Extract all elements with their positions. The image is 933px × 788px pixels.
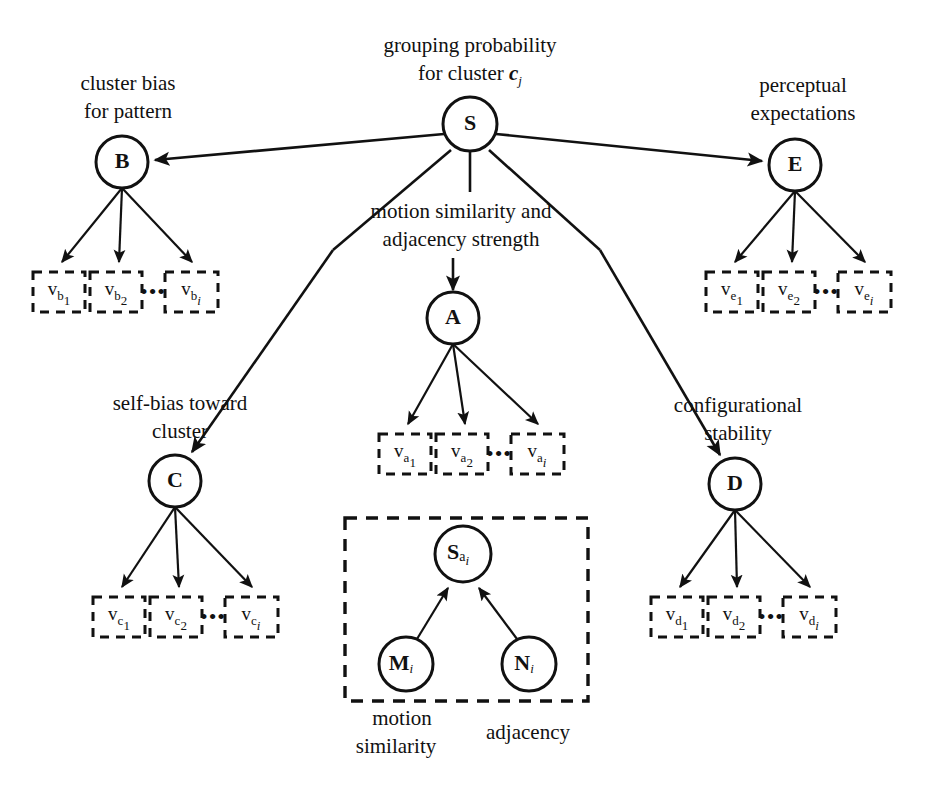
edge-b-to-vb2 xyxy=(119,188,122,262)
leaf-group-d: ••• vd1 vd2 vdi xyxy=(651,597,836,637)
node-label-b: B xyxy=(115,148,130,173)
node-n[interactable]: Ni xyxy=(502,637,556,691)
leaf-ellipsis-a: ••• xyxy=(486,441,512,466)
node-d[interactable]: D xyxy=(709,458,761,510)
edge-c-to-vc2 xyxy=(175,507,179,587)
annot-cluster-bias-line1: cluster bias xyxy=(80,71,175,95)
leaf-group-c: ••• vc1 vc2 vci xyxy=(93,597,278,637)
node-label-a: A xyxy=(445,304,461,329)
edges-from-e xyxy=(735,191,865,262)
annot-config-line1: configurational xyxy=(674,393,802,417)
annot-self-bias-line1: self-bias toward xyxy=(113,391,248,415)
node-sa[interactable]: Sai xyxy=(435,526,491,582)
annot-motion-sim-line1: motion xyxy=(372,706,432,730)
edge-d-to-vdi xyxy=(735,510,810,587)
neural-network-diagram: ••• vb1 vb2 vbi ••• ve1 ve2 vei ••• va1 … xyxy=(0,0,933,788)
edge-a-to-va2 xyxy=(453,344,465,424)
edge-s-to-b xyxy=(155,134,444,160)
leaf-ellipsis-c: ••• xyxy=(200,604,226,629)
leaf-group-e: ••• ve1 ve2 vei xyxy=(706,272,891,312)
node-b[interactable]: B xyxy=(96,136,148,188)
node-label-c: C xyxy=(167,467,183,492)
leaf-ellipsis-b: ••• xyxy=(140,279,166,304)
edge-s-to-e xyxy=(496,134,762,161)
annot-config-line2: stability xyxy=(704,421,772,445)
annot-motion-adj-line2: adjacency strength xyxy=(383,227,540,251)
node-label-e: E xyxy=(788,151,803,176)
annot-grouping-line1: grouping probability xyxy=(383,33,557,57)
edge-e-to-vei xyxy=(795,191,865,262)
annot-perceptual-line1: perceptual xyxy=(759,73,847,97)
edges-from-c xyxy=(122,507,252,587)
node-c[interactable]: C xyxy=(149,455,201,507)
annot-perceptual-line2: expectations xyxy=(751,101,856,125)
edges-from-d xyxy=(680,510,810,587)
edges-from-b xyxy=(62,188,192,262)
annot-cluster-bias-line2: for pattern xyxy=(84,99,173,123)
edge-e-to-ve1 xyxy=(735,191,795,262)
leaf-ellipsis-e: ••• xyxy=(813,279,839,304)
node-m[interactable]: Mi xyxy=(379,637,433,691)
annot-motion-sim-line2: similarity xyxy=(356,734,437,758)
annotation-motion-similarity: motion similarity xyxy=(356,706,437,758)
annotation-motion-adjacency: motion similarity and adjacency strength xyxy=(371,199,552,251)
node-a[interactable]: A xyxy=(427,292,479,344)
annotation-adjacency: adjacency xyxy=(486,720,570,744)
edges-from-a xyxy=(408,344,538,424)
node-label-s: S xyxy=(464,110,476,135)
leaf-group-b: ••• vb1 vb2 vbi xyxy=(33,272,218,312)
annotation-grouping-probability: grouping probability for cluster cj xyxy=(383,33,557,88)
annot-self-bias-line2: cluster xyxy=(152,419,208,443)
edge-b-to-vb1 xyxy=(62,188,122,262)
annot-grouping-line2: for cluster cj xyxy=(418,61,522,88)
edge-a-to-vai xyxy=(453,344,538,424)
node-s[interactable]: S xyxy=(443,97,497,151)
annotation-self-bias: self-bias toward cluster xyxy=(113,391,248,443)
annotation-cluster-bias: cluster bias for pattern xyxy=(80,71,175,123)
node-label-d: D xyxy=(727,470,743,495)
annotation-configurational-stability: configurational stability xyxy=(674,393,802,445)
leaf-ellipsis-d: ••• xyxy=(758,604,784,629)
edge-d-to-vd2 xyxy=(735,510,737,587)
leaf-group-a: ••• va1 va2 vai xyxy=(379,434,564,474)
edge-c-to-vc1 xyxy=(122,507,175,587)
annot-adjacency-line1: adjacency xyxy=(486,720,570,744)
diagram-page: ••• vb1 vb2 vbi ••• ve1 ve2 vei ••• va1 … xyxy=(0,0,933,788)
edge-b-to-vbi xyxy=(122,188,192,262)
annot-motion-adj-line1: motion similarity and xyxy=(371,199,552,223)
edge-c-to-vci xyxy=(175,507,252,587)
edge-e-to-ve2 xyxy=(792,191,795,262)
node-e[interactable]: E xyxy=(769,139,821,191)
edge-a-to-va1 xyxy=(408,344,453,424)
edge-d-to-vd1 xyxy=(680,510,735,587)
edge-s-to-d-2 xyxy=(600,250,720,455)
annotation-perceptual-expectations: perceptual expectations xyxy=(751,73,856,125)
